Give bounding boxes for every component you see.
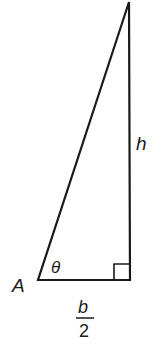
triangle bbox=[38, 2, 130, 280]
base-denominator-label: 2 bbox=[79, 321, 89, 341]
right-triangle-diagram: A θ h b 2 bbox=[0, 0, 161, 356]
vertex-a-label: A bbox=[11, 275, 25, 296]
right-angle-marker bbox=[114, 264, 130, 280]
height-label: h bbox=[136, 133, 147, 154]
angle-theta-label: θ bbox=[51, 258, 61, 277]
base-numerator-label: b bbox=[78, 297, 88, 317]
